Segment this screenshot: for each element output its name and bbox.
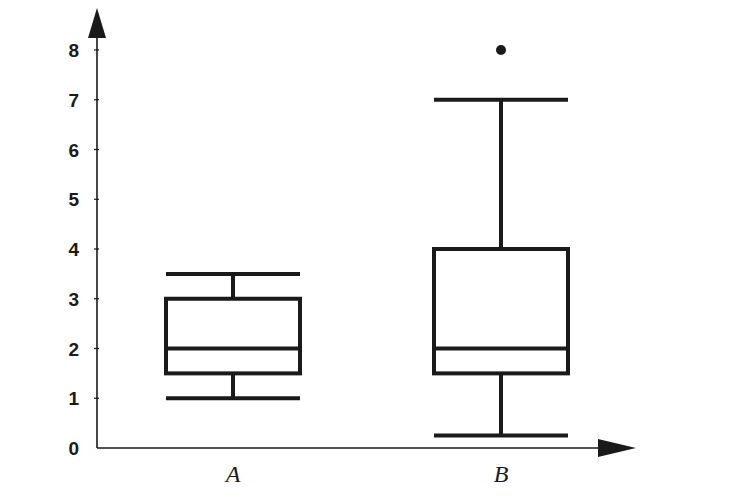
y-tick-label: 3 — [68, 289, 79, 310]
boxes — [166, 45, 568, 436]
x-axis-labels: AB — [224, 461, 509, 487]
iqr-box — [434, 249, 568, 373]
outlier-point — [496, 45, 506, 55]
y-tick-label: 5 — [68, 189, 79, 210]
y-tick-label: 6 — [68, 140, 79, 161]
x-axis-arrow — [598, 439, 636, 457]
box-B — [434, 45, 568, 436]
iqr-box — [166, 299, 300, 374]
box-plot-chart: 012345678 AB — [0, 0, 739, 500]
y-tick-label: 0 — [68, 438, 79, 459]
box-A — [166, 274, 300, 398]
y-tick-label: 1 — [68, 388, 79, 409]
y-tick-label: 7 — [68, 90, 79, 111]
y-axis-arrow — [88, 8, 106, 38]
y-tick-label: 4 — [68, 239, 79, 260]
axes — [88, 8, 636, 457]
x-category-label: A — [224, 461, 241, 487]
y-axis-ticks: 012345678 — [68, 40, 99, 459]
y-tick-label: 8 — [68, 40, 79, 61]
x-category-label: B — [494, 461, 509, 487]
y-tick-label: 2 — [68, 339, 79, 360]
